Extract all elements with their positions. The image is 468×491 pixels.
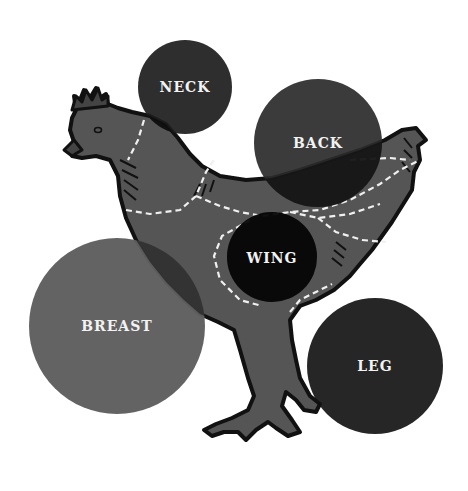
chicken-cuts-diagram: NECK BACK WING BREAST LEG [0,0,468,491]
label-breast[interactable]: BREAST [81,318,153,334]
label-neck[interactable]: NECK [160,79,211,95]
cut-circles [0,0,468,491]
label-back[interactable]: BACK [293,135,343,151]
label-leg[interactable]: LEG [357,358,392,374]
label-wing[interactable]: WING [246,250,297,266]
